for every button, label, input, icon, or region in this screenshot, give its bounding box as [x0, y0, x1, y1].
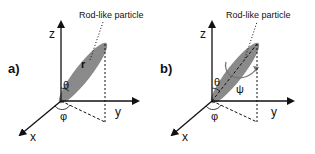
particle-axis: [212, 44, 257, 101]
diagram-canvas: a) Rod-like particle z y x θ φ r b): [0, 0, 315, 154]
y-axis-label: y: [271, 105, 277, 119]
particle-label: Rod-like particle: [79, 10, 144, 20]
xy-projection: [61, 101, 105, 122]
z-axis-label: z: [200, 27, 206, 41]
phi-arc: [55, 105, 70, 110]
phi-label: φ: [211, 110, 218, 122]
rod-particle: [53, 38, 112, 108]
x-axis-label: x: [30, 130, 36, 144]
psi-label: ψ: [236, 83, 244, 95]
theta-label: θ: [214, 76, 220, 88]
rod-particle: [205, 38, 264, 108]
panel-a: a) Rod-like particle z y x θ φ r: [8, 10, 144, 144]
phi-label: φ: [60, 110, 67, 122]
panel-b: b) Rod-like particle z y x θ φ ψ: [160, 10, 293, 144]
panel-b-label: b): [160, 61, 172, 76]
panel-a-label: a): [8, 61, 20, 76]
z-axis-label: z: [49, 27, 55, 41]
theta-label: θ: [63, 79, 69, 91]
y-axis-label: y: [115, 105, 121, 119]
xy-projection: [212, 101, 257, 122]
x-axis: [20, 101, 61, 135]
phi-arc: [206, 105, 221, 110]
x-axis-label: x: [182, 130, 188, 144]
particle-label: Rod-like particle: [226, 10, 291, 20]
vector-r-label: r: [81, 58, 86, 70]
